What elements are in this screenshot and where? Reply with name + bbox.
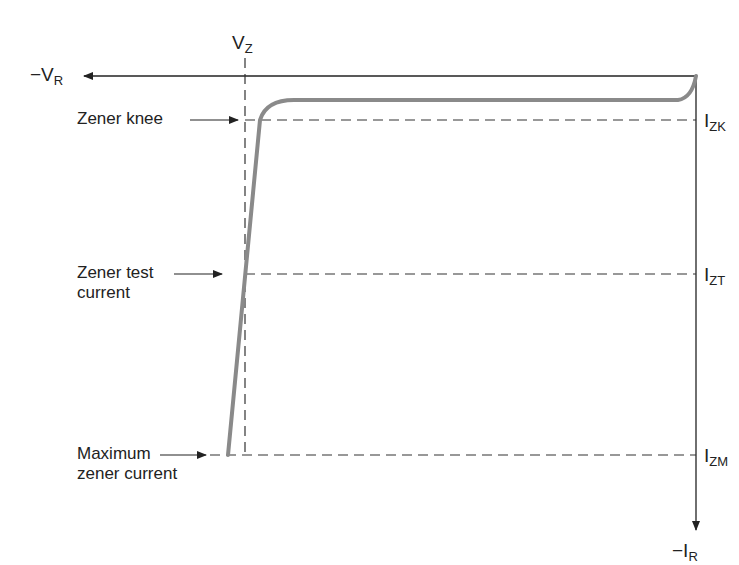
- max-current-annotation-line2: zener current: [77, 464, 177, 484]
- test-current-annotation-line1: Zener test: [77, 263, 154, 283]
- test-current-annotation-line2: current: [77, 283, 130, 303]
- max-current-annotation-line1: Maximum: [77, 444, 151, 464]
- vz-label: VZ: [232, 32, 253, 56]
- izm-label: IZM: [704, 445, 728, 469]
- neg-ir-label: −IR: [672, 540, 698, 564]
- neg-vr-label: −VR: [30, 64, 63, 88]
- izk-label: IZK: [704, 110, 726, 134]
- zener-knee-annotation: Zener knee: [77, 109, 163, 129]
- zener-curve: [228, 76, 696, 455]
- izt-label: IZT: [704, 264, 725, 288]
